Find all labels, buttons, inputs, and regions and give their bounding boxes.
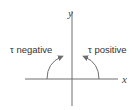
tau-positive-label: τ positive xyxy=(88,44,127,55)
torque-sign-diagram: y x τ negative τ positive xyxy=(0,0,140,110)
y-axis-label: y xyxy=(67,7,73,19)
curved-arrow-right-icon xyxy=(85,57,99,79)
x-axis-label: x xyxy=(121,73,127,85)
tau-negative-label: τ negative xyxy=(10,44,52,55)
curved-arrow-left-icon xyxy=(47,57,61,79)
